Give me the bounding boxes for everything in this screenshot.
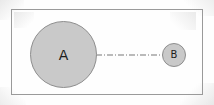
dash-dot-connector [96, 54, 163, 56]
node-a-label: A [59, 48, 69, 62]
node-b-label: B [171, 50, 178, 60]
diagram-canvas: A B [0, 0, 214, 105]
node-b[interactable]: B [162, 43, 186, 67]
node-a[interactable]: A [30, 21, 97, 88]
